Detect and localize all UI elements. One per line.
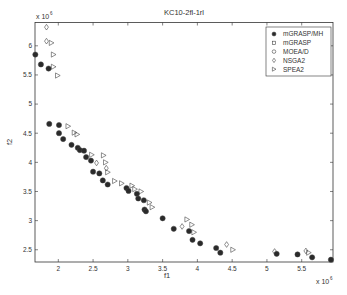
- marker-triangle-right: [150, 205, 155, 210]
- marker-filled-circle: [186, 229, 191, 234]
- x-tick-label: 3: [126, 265, 130, 272]
- marker-diamond: [180, 224, 184, 230]
- y-exponent-base: x 10: [36, 13, 49, 20]
- x-axis-label-text: f1: [164, 271, 170, 280]
- marker-filled-circle: [61, 136, 66, 141]
- marker-triangle-right: [90, 152, 95, 157]
- y-tick-label: 5.5: [23, 71, 32, 78]
- marker-triangle-right: [56, 73, 61, 78]
- marker-filled-circle: [272, 32, 276, 36]
- marker-filled-circle: [171, 226, 176, 231]
- marker-diamond: [95, 160, 99, 166]
- x-tick-label: 5: [265, 265, 269, 272]
- legend-label: NSGA2: [283, 57, 305, 64]
- legend-label: SPEA2: [283, 66, 304, 73]
- marker-filled-circle: [90, 169, 95, 174]
- x-axis-label: f1: [164, 271, 170, 280]
- marker-triangle-right: [147, 200, 152, 205]
- legend-label: MOEA/D: [283, 48, 309, 55]
- marker-triangle-right: [231, 247, 236, 252]
- marker-filled-circle: [38, 62, 43, 67]
- legend: mGRASP/MHmGRASPMOEA/DNSGA2SPEA2: [266, 27, 331, 76]
- marker-triangle-right: [106, 170, 111, 175]
- marker-triangle-right: [185, 217, 190, 222]
- marker-filled-circle: [88, 158, 93, 163]
- marker-filled-circle: [84, 155, 89, 160]
- marker-filled-circle: [47, 121, 52, 126]
- marker-diamond: [304, 248, 308, 254]
- scatter-chart: KC10-2fl-1rl x 10 6 22.533.544.555.5 2.5…: [0, 0, 347, 295]
- marker-filled-circle: [33, 52, 38, 57]
- y-tick-label: 6: [28, 42, 32, 49]
- marker-filled-circle: [134, 191, 139, 196]
- marker-filled-circle: [274, 251, 279, 256]
- y-tick-label: 2.5: [23, 246, 32, 253]
- marker-triangle-right: [113, 178, 118, 183]
- legend-label: mGRASP: [283, 39, 311, 46]
- x-tick-label: 4.5: [228, 265, 237, 272]
- chart-title: KC10-2fl-1rl: [164, 8, 204, 17]
- marker-filled-circle: [141, 198, 146, 203]
- marker-filled-circle: [105, 182, 110, 187]
- marker-filled-circle: [136, 196, 141, 201]
- y-tick-label: 4.5: [23, 130, 32, 137]
- x-axis-exponent: x 10 6: [316, 276, 333, 285]
- y-axis-label: f2: [5, 139, 14, 145]
- y-exponent-power: 6: [50, 11, 53, 16]
- marker-diamond: [45, 24, 49, 30]
- marker-filled-circle: [56, 122, 61, 127]
- marker-triangle-right: [101, 153, 106, 158]
- marker-filled-circle: [81, 148, 86, 153]
- marker-filled-circle: [218, 250, 223, 255]
- marker-filled-circle: [310, 255, 315, 260]
- marker-triangle-right: [51, 52, 56, 57]
- y-axis-label-text: f2: [5, 139, 14, 145]
- marker-filled-circle: [56, 131, 61, 136]
- x-tick-label: 5.5: [297, 265, 306, 272]
- marker-filled-circle: [214, 245, 219, 250]
- y-axis-exponent: x 10 6: [36, 11, 53, 20]
- marker-triangle-right: [120, 181, 125, 186]
- y-tick-label: 5: [28, 100, 32, 107]
- marker-filled-circle: [100, 178, 105, 183]
- series-mgrasp-mh: [33, 52, 334, 262]
- marker-triangle-right: [49, 40, 54, 45]
- marker-filled-circle: [97, 171, 102, 176]
- x-tick-label: 2.5: [89, 265, 98, 272]
- marker-triangle-right: [104, 160, 109, 165]
- marker-diamond: [45, 38, 49, 44]
- y-tick-label: 4: [28, 159, 32, 166]
- y-tick-label: 3: [28, 217, 32, 224]
- marker-filled-circle: [126, 188, 131, 193]
- marker-triangle-right: [190, 222, 195, 227]
- marker-filled-circle: [328, 257, 333, 262]
- x-tick-label: 4: [196, 265, 200, 272]
- marker-filled-circle: [198, 241, 203, 246]
- x-exponent-power: 6: [330, 276, 333, 281]
- marker-filled-circle: [46, 66, 51, 71]
- marker-filled-circle: [143, 209, 148, 214]
- marker-triangle-right: [307, 250, 312, 255]
- marker-filled-circle: [295, 252, 300, 257]
- legend-label: mGRASP/MH: [283, 30, 323, 37]
- marker-filled-circle: [69, 142, 74, 147]
- marker-triangle-right: [192, 230, 197, 235]
- marker-triangle-right: [51, 64, 56, 69]
- y-tick-label: 3.5: [23, 188, 32, 195]
- x-exponent-base: x 10: [316, 278, 329, 285]
- marker-triangle-right: [66, 124, 71, 129]
- marker-filled-circle: [160, 216, 165, 221]
- marker-diamond: [225, 242, 229, 248]
- marker-filled-circle: [190, 237, 195, 242]
- x-tick-label: 2: [56, 265, 60, 272]
